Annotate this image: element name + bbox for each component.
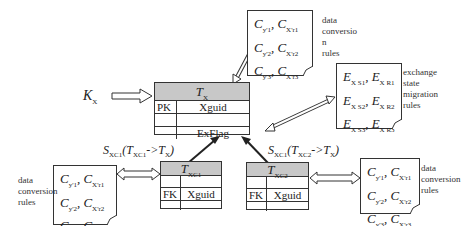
note-right-label: exchangestatemigrationrules <box>403 67 438 111</box>
sync-to: T <box>323 143 330 157</box>
row-key <box>155 127 177 139</box>
table-row: FK Xguid <box>161 188 221 201</box>
sync-from: T <box>291 143 298 157</box>
row-key <box>161 201 181 210</box>
table-row: PK Xguid <box>155 101 249 114</box>
page-fold-icon <box>410 204 420 214</box>
input-arrow <box>112 89 152 103</box>
sync-s-sub: XC1 <box>109 151 122 159</box>
row-field: ExFlag <box>177 127 249 139</box>
row-field: Xguid <box>181 188 221 200</box>
note-line: Cy'1, CX'r1 <box>60 170 116 194</box>
child1-to-main-arrow <box>188 136 220 163</box>
table-row <box>161 201 221 210</box>
sync-from-sub: XC1 <box>133 151 146 159</box>
main-table-header: TX <box>155 83 249 101</box>
row-field <box>267 202 308 211</box>
input-label: KX <box>83 88 97 106</box>
note-line: Cy'2, CX'r2 <box>60 194 116 218</box>
child-table-1[interactable]: TXC1 FK Xguid <box>160 161 222 209</box>
page-fold-icon <box>392 119 402 129</box>
table-row <box>161 176 221 188</box>
row-field: Xguid <box>177 101 249 113</box>
bottom-right-note-double-arrow <box>310 172 360 184</box>
row-key: PK <box>155 101 177 113</box>
sync-arrow: -> <box>146 143 158 157</box>
row-field <box>177 114 249 126</box>
row-key <box>155 114 177 126</box>
note-line: Cy'1, CX'r1 <box>367 163 419 187</box>
sync-s-sub: XC1 <box>274 151 287 159</box>
table-row <box>247 177 308 189</box>
page-fold-icon <box>107 215 117 225</box>
row-key <box>161 176 181 187</box>
row-field <box>267 177 308 188</box>
child-table-1-title: T <box>181 161 188 176</box>
note-left-data-conversion: Cy'1, CX'r1 Cy'2, CX'r2 Cy'3, CX'r3 <box>53 165 117 225</box>
note-right-exchange-state: EX S1, EX R1 EX S2, EX R2 EX S3, EX R3 <box>336 63 402 129</box>
sync-from: T <box>126 143 133 157</box>
note-line: Cy'1, CX'r1 <box>254 15 312 39</box>
sync-label-2: SXC1(TXC2->TX) <box>268 143 339 159</box>
sync-label-1: SXC1(TXC1->TX) <box>103 143 174 159</box>
child-table-2-title: T <box>267 162 274 177</box>
row-key: FK <box>247 189 267 201</box>
note-left-label: dataconversionrules <box>18 175 58 208</box>
input-label-main: K <box>83 88 92 103</box>
row-key <box>247 177 267 188</box>
main-table[interactable]: TX PK Xguid ExFlag <box>154 82 250 135</box>
sync-arrow: -> <box>311 143 323 157</box>
row-field: Xguid <box>267 189 308 201</box>
sync-to-sub: X <box>165 151 170 159</box>
main-table-title: T <box>196 84 203 99</box>
note-bottom-right-data-conversion: Cy'1, CX'r1 Cy'2, CX'r2 Cy'3, CX'r3 <box>360 158 420 214</box>
row-field <box>181 201 221 210</box>
sync-to: T <box>158 143 165 157</box>
note-top-label: dataconversionrules <box>322 15 357 59</box>
page-fold-icon <box>303 66 313 76</box>
sync-to-sub: X <box>330 151 335 159</box>
child-table-2-header: TXC2 <box>247 163 308 177</box>
note-bottom-right-label: dataconversionrules <box>421 163 461 196</box>
table-row: ExFlag <box>155 127 249 139</box>
table-row <box>155 114 249 127</box>
row-field <box>181 176 221 187</box>
left-note-double-arrow <box>117 168 160 180</box>
right-note-double-arrow <box>265 96 335 131</box>
table-row <box>247 202 308 211</box>
child2-to-main-arrow <box>241 136 268 163</box>
child-table-1-header: TXC1 <box>161 162 221 176</box>
input-label-sub: X <box>92 98 97 106</box>
child-table-2[interactable]: TXC2 FK Xguid <box>246 162 309 210</box>
row-key: FK <box>161 188 181 200</box>
table-row: FK Xguid <box>247 189 308 202</box>
note-top-data-conversion: Cy'1, CX'r1 Cy'2, CX'r2 Cy'3, CX'r3 <box>247 10 313 76</box>
sync-from-sub: XC2 <box>298 151 311 159</box>
note-line: EX S2, EX R2 <box>343 92 401 116</box>
note-line: EX S1, EX R1 <box>343 68 401 92</box>
row-key <box>247 202 267 211</box>
note-line: Cy'2, CX'r2 <box>254 39 312 63</box>
